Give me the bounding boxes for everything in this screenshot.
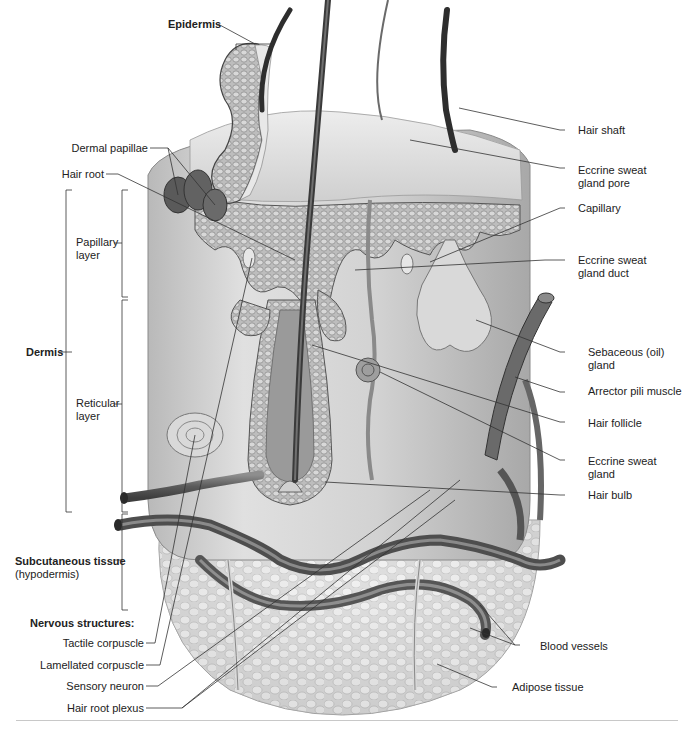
label-papillary-line1: Papillary xyxy=(76,236,118,248)
label-eccrine-sweat-gland-pore: Eccrine sweat gland pore xyxy=(578,164,646,190)
label-tactile-corpuscle: Tactile corpuscle xyxy=(10,637,144,650)
label-adipose-tissue: Adipose tissue xyxy=(512,681,584,694)
label-eccrine-sweat-gland: Eccrine sweat gland xyxy=(588,455,656,481)
label-nervous-structures: Nervous structures: xyxy=(30,617,135,630)
label-hair-follicle: Hair follicle xyxy=(588,417,642,430)
label-epidermis: Epidermis xyxy=(168,18,221,31)
label-subcutaneous-line1: Subcutaneous tissue xyxy=(15,555,126,567)
label-subcutaneous-tissue: Subcutaneous tissue (hypodermis) xyxy=(15,555,126,581)
label-eccrine-duct-line1: Eccrine sweat xyxy=(578,254,646,266)
label-sebaceous-gland: Sebaceous (oil) gland xyxy=(588,346,664,372)
skin-diagram: Epidermis Dermal papillae Hair root Papi… xyxy=(0,0,693,735)
label-reticular-layer: Reticular layer xyxy=(76,397,119,423)
label-hair-bulb: Hair bulb xyxy=(588,489,632,502)
label-eccrine-sweat-gland-duct: Eccrine sweat gland duct xyxy=(578,254,646,280)
label-sensory-neuron: Sensory neuron xyxy=(10,680,144,693)
label-hair-root: Hair root xyxy=(46,168,104,181)
label-blood-vessels: Blood vessels xyxy=(540,640,608,653)
label-dermal-papillae: Dermal papillae xyxy=(46,142,148,155)
label-eccrine-pore-line1: Eccrine sweat xyxy=(578,164,646,176)
label-eccrine-gland-line1: Eccrine sweat xyxy=(588,455,656,467)
label-hair-shaft: Hair shaft xyxy=(578,124,625,137)
label-eccrine-pore-line2: gland pore xyxy=(578,177,630,189)
label-dermis: Dermis xyxy=(26,346,63,359)
label-subcutaneous-line2: (hypodermis) xyxy=(15,568,79,580)
label-arrector-pili-muscle: Arrector pili muscle xyxy=(588,385,682,398)
label-eccrine-gland-line2: gland xyxy=(588,468,615,480)
label-eccrine-duct-line2: gland duct xyxy=(578,267,629,279)
bottom-divider xyxy=(16,720,678,721)
label-reticular-line1: Reticular xyxy=(76,397,119,409)
label-papillary-layer: Papillary layer xyxy=(76,236,118,262)
label-papillary-line2: layer xyxy=(76,249,100,261)
label-reticular-line2: layer xyxy=(76,410,100,422)
label-lamellated-corpuscle: Lamellated corpuscle xyxy=(10,659,144,672)
label-capillary: Capillary xyxy=(578,202,621,215)
label-sebaceous-line2: gland xyxy=(588,359,615,371)
label-hair-root-plexus: Hair root plexus xyxy=(10,702,144,715)
label-sebaceous-line1: Sebaceous (oil) xyxy=(588,346,664,358)
